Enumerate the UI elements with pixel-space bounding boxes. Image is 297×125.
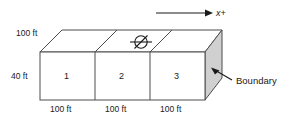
axis-label: x+ bbox=[216, 9, 226, 18]
bottom-dimension-label-3: 100 ft bbox=[160, 105, 181, 114]
top-face bbox=[40, 30, 222, 52]
cell-label-2: 2 bbox=[119, 72, 124, 81]
boundary-label: Boundary bbox=[236, 76, 277, 86]
cell-label-1: 1 bbox=[64, 72, 69, 81]
right-arrow-icon bbox=[156, 10, 213, 17]
bottom-dimension-label-1: 100 ft bbox=[50, 105, 71, 114]
block-model-figure bbox=[0, 0, 297, 125]
bottom-dimension-label-2: 100 ft bbox=[105, 105, 126, 114]
cell-label-3: 3 bbox=[174, 72, 179, 81]
height-dimension-label: 40 ft bbox=[11, 72, 28, 81]
depth-dimension-label: 100 ft bbox=[16, 29, 37, 38]
